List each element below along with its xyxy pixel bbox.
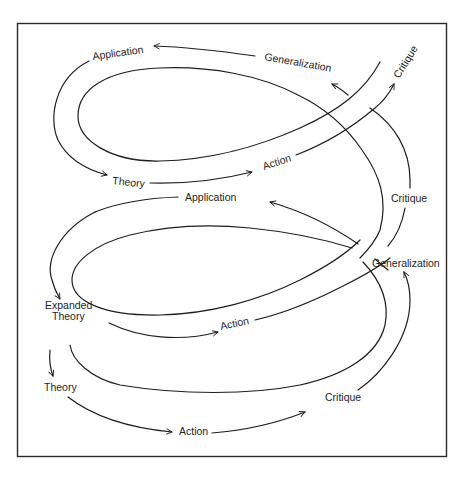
bottom-theory-to-action-arrow xyxy=(68,397,172,432)
top-outer-arc-to-theory xyxy=(54,61,107,175)
label-top-application: Application xyxy=(92,43,145,62)
label-mid-critique: Critique xyxy=(391,192,427,204)
bottom-action-to-critique-arrow xyxy=(212,412,305,433)
top-right-outer-arc xyxy=(370,108,410,188)
top-outer-arrow-to-application xyxy=(154,46,255,56)
top-theory-to-action-arrow xyxy=(150,172,252,183)
bottom-short-arrow-to-theory xyxy=(50,350,53,376)
label-top-generalization: Generalization xyxy=(264,50,333,74)
top-generalization-arrow xyxy=(332,84,348,95)
label-bottom-theory: Theory xyxy=(44,381,77,393)
label-mid-expanded-theory-line2: Theory xyxy=(52,310,85,322)
label-mid-application: Application xyxy=(185,191,237,203)
label-top-action: Action xyxy=(261,151,293,171)
label-bottom-critique: Critique xyxy=(325,391,361,403)
top-inner-loop xyxy=(78,62,383,258)
spiral-diagram: Application Generalization Critique Theo… xyxy=(0,0,466,477)
label-mid-action: Action xyxy=(219,314,250,332)
label-mid-generalization: Generalization xyxy=(372,257,440,269)
mid-expanded-theory-to-action-arrow xyxy=(109,323,218,338)
diagram-frame xyxy=(18,24,447,457)
label-top-critique: Critique xyxy=(391,43,420,80)
mid-outer-top-line xyxy=(95,197,178,212)
label-top-theory: Theory xyxy=(112,174,147,189)
bottom-critique-to-generalization-arrow xyxy=(358,272,410,390)
mid-right-outer-arc-lower xyxy=(388,208,405,246)
top-action-to-critique-arrow xyxy=(296,84,394,155)
label-bottom-action: Action xyxy=(179,425,208,437)
mid-inner-loop xyxy=(72,226,360,315)
